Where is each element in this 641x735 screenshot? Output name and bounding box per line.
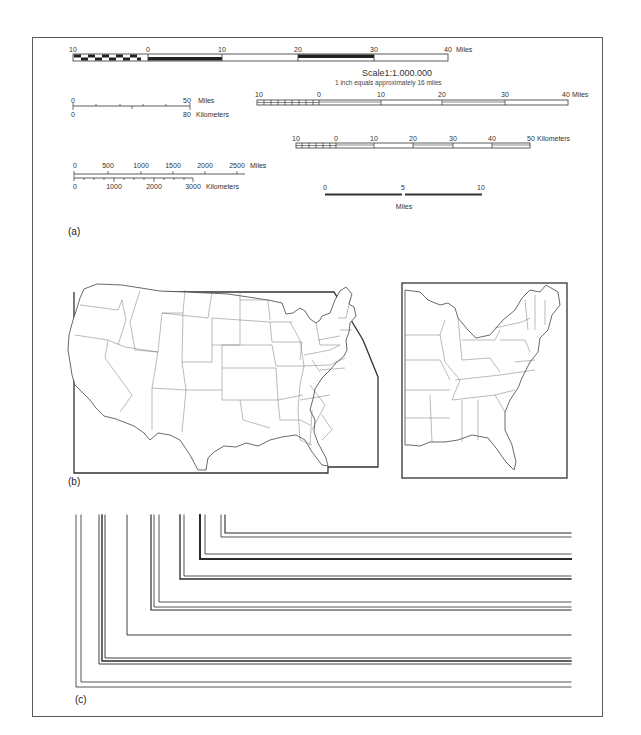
line-weight-frames (0, 0, 641, 735)
panel-c-label: (c) (75, 694, 87, 705)
